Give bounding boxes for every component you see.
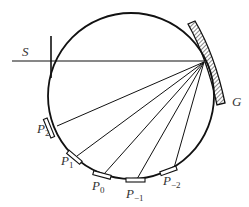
label-pm1: P−1 [125,186,144,203]
label-source: S [22,44,29,59]
label-grating: G [232,94,242,109]
concave-grating [188,21,225,105]
plates [43,118,177,182]
label-p0: P0 [91,178,105,195]
label-pm2: P−2 [162,173,181,190]
plate-pm1 [126,178,145,182]
rowland-circle-diagram: S G P2 P1 P0 P−1 P−2 [0,0,249,207]
